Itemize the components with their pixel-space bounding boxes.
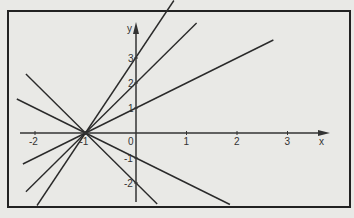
x-axis-label: x (319, 136, 324, 147)
line-family (17, 1, 274, 206)
diagram-canvas: -2-11230 321-1-2 y x (0, 0, 354, 218)
x-tick-label: -2 (29, 136, 38, 147)
y-axis-label: y (127, 23, 132, 34)
y-tick-label: -1 (124, 153, 133, 164)
y-tick-label: 1 (128, 103, 134, 114)
x-tick-label: -1 (80, 136, 89, 147)
y-tick-label: 2 (128, 78, 134, 89)
x-tick-label: 2 (234, 136, 240, 147)
line-slope-3 (37, 1, 174, 206)
line-slope--2 (26, 74, 157, 204)
y-tick-label: -2 (124, 178, 133, 189)
x-tick-label: 1 (184, 136, 190, 147)
origin-label: 0 (128, 136, 134, 147)
line-slope-2 (26, 23, 197, 192)
y-axis-arrow-icon (133, 22, 139, 34)
x-tick-label: 3 (285, 136, 291, 147)
y-tick-label: 3 (128, 53, 134, 64)
